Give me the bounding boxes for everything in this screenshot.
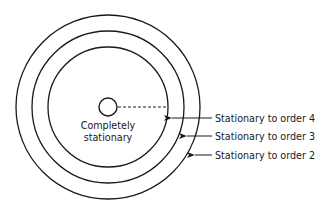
label-order-4: Stationary to order 4 [215, 113, 315, 124]
center-circle-completely-stationary [99, 98, 117, 116]
stationarity-diagram: Completely stationary Stationary to orde… [0, 0, 326, 214]
middle-ring-order-3 [32, 31, 184, 183]
outer-ring-order-2 [16, 15, 200, 199]
center-label-line2: stationary [84, 132, 133, 143]
center-label-line1: Completely [81, 120, 136, 131]
label-order-2: Stationary to order 2 [215, 150, 315, 161]
label-order-3: Stationary to order 3 [215, 131, 315, 142]
